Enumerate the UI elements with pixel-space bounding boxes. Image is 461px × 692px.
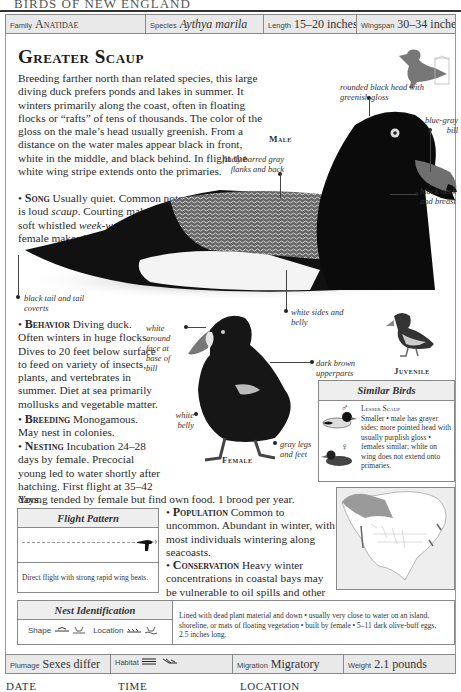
annotation-upperparts: dark brown upperparts — [316, 358, 386, 378]
annotation-bill-line — [430, 130, 431, 172]
flight-path-line — [22, 542, 150, 543]
wingspan-label: Wingspan — [361, 21, 394, 30]
habitat-cell: Habitat — [111, 655, 233, 673]
nest-identification-heading: Nest Identification — [18, 601, 172, 620]
annotation-tail-line — [18, 255, 19, 295]
annotation-belly-dot — [194, 412, 198, 416]
length-cell: Length 15–20 inches — [264, 15, 357, 33]
annotation-neck: black neck and breast — [420, 186, 460, 206]
time-label: TIME — [118, 680, 147, 692]
nest-icons-row: Shape Location — [18, 620, 172, 640]
annotation-face: white around face at base of bill — [146, 323, 182, 373]
annotation-flanks-line — [280, 174, 281, 198]
similar-bird-description: Smaller • male has grayer sides; more po… — [361, 414, 451, 471]
date-label: DATE — [6, 680, 37, 692]
shape-label: Shape — [28, 626, 51, 635]
weight-value: 2.1 pounds — [374, 657, 427, 672]
conservation-heading: Conservation — [173, 558, 239, 572]
location-label: Location — [93, 626, 123, 635]
wingspan-cell: Wingspan 30–34 inches — [357, 15, 455, 33]
annotation-head-line — [369, 98, 370, 116]
flight-pattern-description: Direct flight with strong rapid wing bea… — [18, 563, 158, 583]
length-label: Length — [268, 21, 291, 30]
migration-value: Migratory — [271, 657, 320, 672]
population-section: • Population Common to uncommon. Abundan… — [166, 506, 336, 559]
nest-identification-left: Nest Identification Shape Location — [18, 601, 173, 644]
family-cell: Family Anatidae — [6, 15, 146, 33]
top-info-bar: Family Anatidae Species Aythya marila Le… — [5, 14, 456, 34]
wingspan-value: 30–34 inches — [397, 17, 455, 32]
plumage-label: Plumage — [10, 661, 40, 670]
habitat-marsh-icon — [163, 657, 177, 665]
annotation-head: rounded black head with greenish gloss — [340, 82, 430, 102]
annotation-upperparts-line — [270, 362, 310, 363]
lesser-scaup-male-icon — [321, 411, 357, 429]
species-value: Aythya marila — [180, 17, 248, 32]
juvenile-caption: Juvenile — [394, 366, 430, 376]
plumage-value: Sexes differ — [43, 657, 100, 672]
family-label: Family — [10, 21, 32, 30]
female-caption: Female — [222, 455, 253, 465]
page-title: Greater Scaup — [18, 46, 144, 68]
annotation-legs: gray legs and feet — [280, 439, 320, 459]
behavior-section: • Behavior Diving duck. Often winters in… — [18, 318, 160, 411]
annotation-flanks: finely barred gray flanks and back — [214, 154, 284, 174]
nest-location-ground-icon — [127, 626, 141, 634]
migration-cell: Migration Migratory — [233, 655, 344, 673]
flight-pattern-diagram — [18, 528, 158, 563]
range-map — [336, 487, 455, 590]
flying-duck-icon — [137, 534, 157, 552]
behavior-text: Diving duck. Often winters in huge flock… — [18, 318, 158, 410]
annotation-upperparts-dot — [310, 360, 314, 364]
similar-bird-name: Lesser Scaup — [361, 404, 400, 413]
population-heading: Population — [173, 505, 228, 519]
male-caption: Male — [269, 134, 292, 144]
similar-birds-text: Lesser Scaup Smaller • male has grayer s… — [361, 404, 453, 471]
nesting-heading: Nesting — [25, 439, 64, 453]
breeding-heading: Breeding — [25, 412, 70, 426]
nest-location-water-icon — [145, 625, 157, 635]
flight-pattern-heading: Flight Pattern — [18, 509, 158, 528]
location-label: LOCATION — [240, 680, 300, 692]
flight-pattern-panel: Flight Pattern Direct flight with strong… — [17, 508, 159, 593]
migration-label: Migration — [237, 661, 268, 670]
weight-label: Weight — [348, 661, 371, 670]
lesser-scaup-female-icon — [321, 449, 357, 467]
similar-birds-heading: Similar Birds — [319, 381, 454, 401]
annotation-neck-line — [390, 194, 416, 195]
male-duck-illustration — [10, 100, 460, 315]
nest-shape-icon — [55, 626, 69, 634]
length-value: 15–20 inches — [294, 17, 357, 32]
juvenile-duck-illustration — [382, 310, 442, 360]
family-value: Anatidae — [35, 17, 78, 32]
annotation-tail: black tail and tail coverts — [18, 293, 98, 313]
nest-shape-icon-2 — [73, 625, 85, 635]
behavior-heading: Behavior — [25, 317, 70, 331]
top-rule — [0, 10, 461, 12]
annotation-legs-dot — [273, 441, 277, 445]
nesting-text-continued: Young tended by female but find own food… — [18, 493, 318, 506]
annotation-belly: white belly — [170, 410, 194, 430]
breeding-section: • Breeding Monogamous. May nest in colon… — [18, 413, 160, 440]
habitat-label: Habitat — [115, 658, 139, 667]
nest-identification-description: Lined with dead plant material and down … — [173, 601, 454, 644]
species-cell: Species Aythya marila — [146, 15, 264, 33]
species-label: Species — [150, 21, 177, 30]
north-america-range-map-icon — [337, 488, 454, 589]
weight-cell: Weight 2.1 pounds — [344, 655, 455, 673]
similar-birds-panel: Similar Birds ♂ ♀ Lesser Scaup Smaller •… — [318, 380, 455, 482]
habitat-water-icon — [142, 657, 156, 665]
nest-identification-panel: Nest Identification Shape Location Lined… — [17, 600, 455, 645]
annotation-face-line — [188, 327, 206, 328]
annotation-sides-line — [286, 270, 287, 310]
bottom-info-bar: Plumage Sexes differ Habitat Migration M… — [5, 654, 456, 674]
plumage-cell: Plumage Sexes differ — [6, 655, 111, 673]
